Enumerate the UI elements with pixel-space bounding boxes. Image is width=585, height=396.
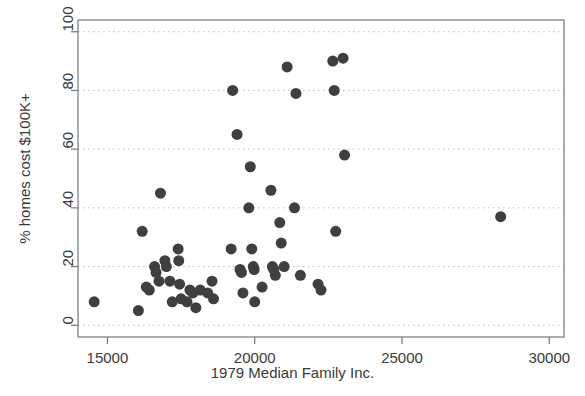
data-point (289, 202, 300, 213)
data-point (316, 285, 327, 296)
data-point (279, 261, 290, 272)
data-point (276, 238, 287, 249)
x-axis-title: 1979 Median Family Inc. (0, 364, 585, 381)
data-point (249, 296, 260, 307)
data-point (227, 85, 238, 96)
data-point (290, 88, 301, 99)
data-point (243, 202, 254, 213)
data-point (208, 293, 219, 304)
data-point (161, 261, 172, 272)
data-point (155, 188, 166, 199)
data-point (282, 61, 293, 72)
data-point (237, 287, 248, 298)
data-point (190, 302, 201, 313)
data-point (133, 305, 144, 316)
data-point (245, 161, 256, 172)
data-point (339, 150, 350, 161)
data-point (173, 243, 184, 254)
data-point (329, 85, 340, 96)
data-point (154, 276, 165, 287)
data-point (270, 270, 281, 281)
data-point (236, 267, 247, 278)
data-point (257, 282, 268, 293)
scatter-chart-figure: 15000200002500030000020406080100 1979 Me… (0, 0, 585, 396)
data-point (89, 296, 100, 307)
data-point (144, 285, 155, 296)
data-point (338, 53, 349, 64)
y-axis-title: % homes cost $100K+ (16, 59, 33, 279)
data-point (295, 270, 306, 281)
data-point (327, 56, 338, 67)
data-point (249, 264, 260, 275)
data-point (207, 276, 218, 287)
data-points-group (89, 53, 506, 316)
data-point (246, 243, 257, 254)
x-tick-marks (107, 337, 549, 344)
data-point (173, 255, 184, 266)
data-point (226, 243, 237, 254)
data-point (137, 226, 148, 237)
data-point (174, 279, 185, 290)
data-point (265, 185, 276, 196)
data-point (232, 129, 243, 140)
data-point (164, 276, 175, 287)
plot-canvas (0, 0, 585, 396)
data-point (274, 217, 285, 228)
data-point (495, 211, 506, 222)
data-point (330, 226, 341, 237)
